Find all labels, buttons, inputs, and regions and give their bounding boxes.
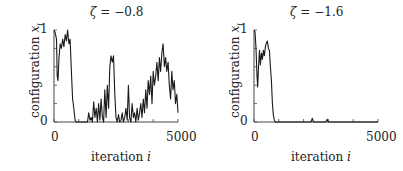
xlabel-var: i (347, 150, 351, 164)
xlabel-text: iteration (291, 150, 347, 164)
chart-panel-right: ζ = −1.6 configuration xi 1 0 0 5000 ite… (200, 0, 400, 171)
title-value: = −0.8 (100, 5, 143, 19)
zeta-symbol: ζ (90, 5, 97, 19)
x-tick-0-left: 0 (51, 130, 59, 144)
y-axis-label-left: configuration xi (28, 23, 44, 118)
ylabel-text: configuration (28, 33, 42, 118)
chart-title-left: ζ = −0.8 (90, 5, 143, 19)
y-tick-0-left: 0 (40, 114, 48, 128)
chart-title-right: ζ = −1.6 (290, 5, 343, 19)
y-tick-0-right: 0 (240, 114, 248, 128)
data-trace (54, 30, 178, 122)
xlabel-text: iteration (91, 150, 147, 164)
xlabel-var: i (147, 150, 151, 164)
x-tick-0-right: 0 (251, 130, 259, 144)
x-axis-label-right: iteration i (291, 150, 351, 164)
x-tick-5000-left: 5000 (166, 130, 197, 144)
y-tick-1-left: 1 (40, 22, 48, 36)
ylabel-text: configuration (228, 33, 242, 118)
data-trace (254, 30, 378, 122)
y-axis-label-right: configuration xi (228, 23, 244, 118)
x-tick-5000-right: 5000 (366, 130, 397, 144)
x-axis-label-left: iteration i (91, 150, 151, 164)
chart-panel-left: ζ = −0.8 configuration xi 1 0 0 5000 ite… (0, 0, 200, 171)
y-tick-1-right: 1 (240, 22, 248, 36)
title-value: = −1.6 (300, 5, 343, 19)
zeta-symbol: ζ (290, 5, 297, 19)
